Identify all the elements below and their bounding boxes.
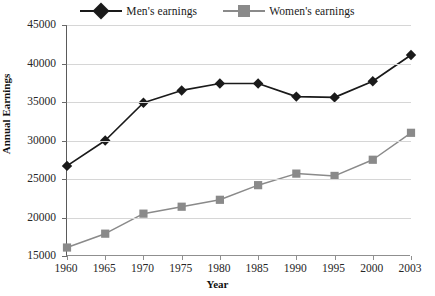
series-line [67,55,411,166]
data-point-marker [254,181,262,189]
y-axis-tick-label: 25000 [0,172,56,184]
y-axis-tick [62,64,67,65]
gridline [67,141,411,142]
gridline [67,102,411,103]
y-axis-tick [62,179,67,180]
legend-item-mens-earnings[interactable]: Men's earnings [80,5,197,17]
data-point-marker [62,161,72,171]
y-axis-tick-label: 35000 [0,95,56,107]
data-point-marker [216,196,224,204]
y-axis-tick [62,102,67,103]
data-point-marker [176,85,186,95]
x-axis-tick [67,256,68,260]
data-point-marker [368,76,378,86]
x-axis-tick [411,256,412,260]
series-mens-earnings [62,50,416,171]
chart-legend: Men's earnings Women's earnings [0,2,435,20]
x-axis-tick [105,256,106,260]
y-axis-tick-label: 30000 [0,134,56,146]
y-axis-tick-label: 45000 [0,18,56,30]
x-axis-tick [373,256,374,260]
y-axis-title: Annual Earnings [0,54,12,174]
data-point-marker [291,91,301,101]
data-point-marker [407,129,415,137]
data-point-marker [215,78,225,88]
data-point-marker [101,230,109,238]
series-womens-earnings [63,129,415,252]
data-point-marker [406,50,416,60]
y-axis-tick-label: 40000 [0,57,56,69]
legend-square-marker-icon [223,5,265,17]
y-axis-tick [62,25,67,26]
legend-label-womens-earnings: Women's earnings [269,5,354,17]
gridline [67,179,411,180]
plot-area [66,25,410,256]
x-axis-tick [296,256,297,260]
x-axis-tick [258,256,259,260]
legend-item-womens-earnings[interactable]: Women's earnings [223,5,354,17]
gridline [67,25,411,26]
data-point-marker [292,170,300,178]
y-axis-tick-label: 15000 [0,249,56,261]
line-chart: Men's earnings Women's earnings Annual E… [0,0,435,296]
series-line [67,133,411,248]
data-point-marker [253,78,263,88]
y-axis-tick-label: 20000 [0,211,56,223]
x-axis-tick-label: 2003 [387,262,433,274]
x-axis-tick [182,256,183,260]
x-axis-title: Year [0,278,435,290]
gridline [67,218,411,219]
y-axis-tick [62,141,67,142]
data-point-marker [369,156,377,164]
legend-label-mens-earnings: Men's earnings [126,5,197,17]
x-axis-tick [335,256,336,260]
gridline [67,64,411,65]
y-axis-tick [62,218,67,219]
data-point-marker [63,243,71,251]
x-axis-tick [143,256,144,260]
legend-diamond-marker-icon [80,5,122,17]
data-point-marker [178,203,186,211]
x-axis-tick [220,256,221,260]
